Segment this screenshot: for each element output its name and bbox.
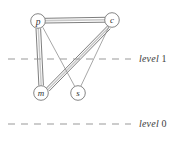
node-s[interactable]: s bbox=[71, 86, 86, 101]
level-0-label: level 0 bbox=[139, 118, 167, 129]
edge-p-m bbox=[36, 28, 43, 85]
edge-layer bbox=[36, 17, 110, 91]
level-0-label-number: 0 bbox=[162, 118, 167, 129]
edge-p-s bbox=[43, 27, 75, 86]
node-layer: p c m s bbox=[31, 13, 120, 101]
node-m[interactable]: m bbox=[34, 86, 49, 101]
node-m-label: m bbox=[38, 88, 45, 98]
level-0-label-word: level bbox=[139, 118, 159, 129]
level-line-layer bbox=[8, 59, 131, 124]
node-c[interactable]: c bbox=[105, 13, 120, 28]
level-1-label-word: level bbox=[139, 53, 159, 64]
edge-s-c bbox=[81, 27, 109, 86]
level-1-label: level 1 bbox=[139, 53, 167, 64]
level-graph-figure: p c m s level 1 level 0 bbox=[0, 0, 183, 141]
level-1-label-number: 1 bbox=[162, 53, 167, 64]
node-p[interactable]: p bbox=[31, 14, 46, 29]
node-s-label: s bbox=[76, 88, 80, 98]
node-p-label: p bbox=[35, 17, 41, 27]
edge-p-c bbox=[45, 17, 105, 23]
node-c-label: c bbox=[110, 15, 114, 25]
